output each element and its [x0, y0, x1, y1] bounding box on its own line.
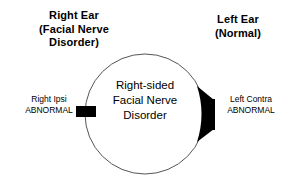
left-contra-marker-base [206, 99, 215, 130]
label-right-ipsi: Right Ipsi ABNORMAL [18, 94, 80, 116]
center-label: Right-sided Facial Nerve Disorder [95, 78, 195, 123]
label-left-contra: Left Contra ABNORMAL [218, 94, 284, 116]
facial-nerve-diagram: Right Ear (Facial Nerve Disorder) Left E… [0, 0, 292, 184]
